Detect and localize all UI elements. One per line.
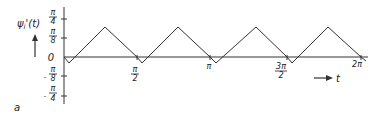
- svg-text:π: π: [51, 8, 56, 17]
- x-axis-label: t: [336, 73, 341, 84]
- svg-text:ψi'(t): ψi'(t): [17, 18, 40, 31]
- y-tick-label-pi4: π 4: [49, 8, 57, 26]
- y-tick-label-pi8: π 8: [49, 27, 57, 45]
- x-arrow-icon: [314, 75, 333, 81]
- y-tick-label-zero: 0: [48, 52, 54, 63]
- waveform-line: [64, 27, 366, 63]
- svg-text:π: π: [133, 65, 138, 74]
- y-tick-label-neg-pi8: - π 8: [44, 65, 57, 83]
- svg-text:-: -: [44, 92, 47, 101]
- svg-text:4: 4: [50, 94, 55, 103]
- svg-text:-: -: [44, 73, 47, 82]
- svg-text:2: 2: [278, 71, 283, 80]
- svg-text:8: 8: [50, 36, 55, 45]
- y-axis-label: ψi'(t): [17, 18, 40, 31]
- x-tick-label-2pi: 2π: [352, 60, 362, 69]
- svg-text:4: 4: [50, 17, 55, 26]
- y-arrow-icon: [32, 34, 38, 57]
- svg-text:8: 8: [50, 74, 55, 83]
- svg-text:π: π: [51, 27, 56, 36]
- x-tick-label-pi: π: [207, 62, 212, 71]
- y-tick-label-neg-pi4: - π 4: [44, 84, 57, 103]
- svg-text:π: π: [51, 65, 56, 74]
- svg-text:π: π: [51, 84, 56, 93]
- svg-text:3π: 3π: [276, 62, 286, 71]
- svg-text:2: 2: [132, 74, 137, 83]
- chart: π 4 π 8 0 - π 8 - π 4 ψi'(t) π 2 π 3π 2 …: [0, 0, 385, 117]
- x-tick-label-3pi2: 3π 2: [275, 62, 287, 80]
- panel-label: a: [14, 102, 20, 113]
- x-tick-label-pi2: π 2: [131, 65, 139, 83]
